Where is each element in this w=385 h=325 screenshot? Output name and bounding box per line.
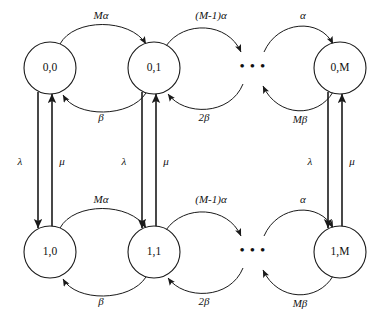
arc-bottom-s1M-to-dots [263,270,333,295]
vertical-links-column-1 [142,92,156,228]
markov-diagram-figure: 0,0 0,1 0,M 1,0 1,1 1,M • • • • • • Mα (… [0,0,385,325]
arc-top-dots-to-s01 [168,84,243,109]
diagram-canvas: 0,0 0,1 0,M 1,0 1,1 1,M • • • • • • Mα (… [0,0,385,325]
state-node-0-M[interactable]: 0,M [314,42,366,94]
arc-top-s01-to-dots [166,28,241,52]
vertical-links-column-0 [38,92,52,228]
rate-label-bottom-backward-3: Mβ [292,297,308,309]
state-label-0-M: 0,M [331,61,350,74]
rate-label-top-forward-1: Mα [93,9,109,21]
arc-bottom-dots-to-s11 [168,268,243,293]
arc-top-s0M-to-dots [263,86,333,111]
arc-bottom-s10-to-s11 [60,209,146,229]
rate-label-top-backward-2: 2β [199,111,211,123]
state-label-0-1: 0,1 [147,61,162,74]
rate-label-lambda-col1: λ [121,155,127,167]
arc-bottom-s11-to-dots [166,212,241,236]
rate-label-bottom-forward-3: α [300,193,306,205]
state-label-1-1: 1,1 [147,245,162,258]
bottom-backward-arcs [63,268,333,296]
rate-label-top-forward-3: α [300,9,306,21]
top-forward-arcs [60,25,333,53]
state-node-1-M[interactable]: 1,M [314,226,366,278]
rate-label-mu-colM: μ [348,155,355,167]
rate-label-top-backward-1: β [97,111,104,123]
arc-bottom-s11-to-s10 [63,277,146,296]
rate-label-mu-col1: μ [162,155,169,167]
bottom-forward-arcs [60,209,333,237]
vertical-links-column-M [328,92,342,228]
rate-label-top-forward-2: (M-1)α [195,9,227,22]
rate-label-bottom-backward-1: β [97,295,104,307]
state-label-0-0: 0,0 [43,61,58,74]
state-node-1-0[interactable]: 1,0 [24,226,76,278]
rate-label-top-backward-3: Mβ [292,113,308,125]
state-node-0-0[interactable]: 0,0 [24,42,76,94]
state-label-1-M: 1,M [331,245,350,258]
state-node-0-1[interactable]: 0,1 [128,42,180,94]
rate-label-bottom-backward-2: 2β [199,295,211,307]
state-label-1-0: 1,0 [43,245,58,258]
state-node-1-1[interactable]: 1,1 [128,226,180,278]
rate-label-lambda-col0: λ [17,155,23,167]
rate-label-bottom-forward-2: (M-1)α [195,193,227,206]
ellipsis-top: • • • [240,58,267,74]
rate-label-lambda-colM: λ [307,155,313,167]
top-backward-arcs [63,84,333,112]
rate-label-bottom-forward-1: Mα [93,193,109,205]
arc-top-s00-to-s01 [60,25,146,45]
arc-top-s01-to-s00 [63,93,146,112]
rate-label-mu-col0: μ [58,155,65,167]
ellipsis-bottom: • • • [240,242,267,258]
